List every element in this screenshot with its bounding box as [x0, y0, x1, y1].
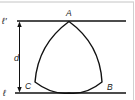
label-top-line: ℓ′ — [1, 16, 7, 26]
reuleaux-triangle — [35, 22, 102, 94]
label-bottom-line: ℓ — [2, 88, 6, 98]
reuleaux-diagram: ℓ′ ℓ d A B C — [0, 0, 135, 100]
label-vertex-a: A — [65, 8, 72, 18]
arrow-down-icon — [17, 87, 21, 93]
label-vertex-c: C — [25, 81, 32, 91]
label-vertex-b: B — [107, 82, 113, 92]
arrow-up-icon — [17, 22, 21, 28]
